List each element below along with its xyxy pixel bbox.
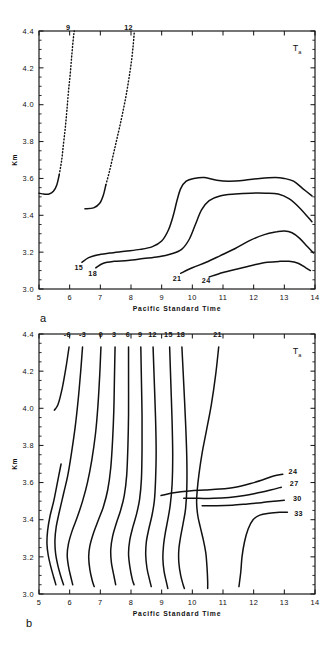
contour-label: -6: [64, 330, 71, 339]
y-tick-label: 3.2: [23, 248, 34, 257]
contour-line: [96, 193, 312, 268]
contour-label: 12: [124, 23, 133, 32]
contour-label: 18: [176, 330, 185, 339]
y-tick-label: 3.8: [23, 441, 34, 450]
panel-label: b: [26, 617, 32, 629]
contour-line: [197, 347, 219, 588]
plot-frame: [39, 31, 315, 289]
panel-b: 5678910111213143.03.23.43.63.84.04.24.4-…: [0, 330, 333, 655]
contour-line: [85, 185, 106, 209]
contour-label: 3: [112, 330, 116, 339]
x-tick-label: 9: [159, 293, 164, 302]
contour-line: [239, 512, 287, 586]
x-tick-label: 9: [159, 598, 164, 607]
contour-label: 15: [75, 263, 84, 272]
y-axis-title: Km: [11, 154, 18, 166]
contour-label: 24: [289, 467, 298, 476]
x-tick-label: 6: [67, 598, 72, 607]
y-axis-title: Km: [11, 458, 18, 470]
panel-label: a: [40, 312, 47, 324]
x-tick-label: 12: [249, 293, 258, 302]
x-tick-label: 7: [98, 598, 103, 607]
corner-annotation: Ta: [293, 346, 303, 358]
x-tick-label: 8: [129, 293, 134, 302]
y-tick-label: 3.6: [23, 174, 34, 183]
contour-label: 0: [99, 330, 103, 339]
y-tick-label: 4.4: [23, 330, 34, 339]
contour-line: [146, 347, 156, 587]
contour-line: [47, 464, 61, 585]
contour-line: [209, 261, 310, 277]
contour-label: 21: [173, 274, 182, 283]
contour-label: 24: [202, 276, 211, 285]
contour-line: [202, 500, 284, 506]
contour-line: [67, 347, 101, 585]
y-tick-label: 3.8: [23, 137, 34, 146]
contour-line: [163, 347, 173, 588]
x-tick-label: 6: [67, 293, 72, 302]
y-tick-label: 3.0: [23, 285, 34, 294]
contour-line: [161, 474, 283, 495]
contour-label: 33: [294, 509, 303, 518]
y-tick-label: 4.4: [23, 27, 34, 36]
y-tick-label: 4.2: [23, 367, 34, 376]
x-tick-label: 14: [310, 598, 319, 607]
contour-label: 12: [148, 330, 157, 339]
figure-root: 5678910111213143.03.23.43.63.84.04.24.49…: [0, 0, 333, 655]
contour-line: [129, 347, 143, 585]
contour-label: 18: [88, 269, 97, 278]
x-tick-label: 8: [129, 598, 134, 607]
x-axis-title: Pacific Standard Time: [133, 305, 222, 312]
contour-line: [111, 347, 129, 585]
panel-a-plot: 5678910111213143.03.23.43.63.84.04.24.49…: [0, 0, 333, 330]
contour-line: [55, 347, 83, 585]
y-tick-label: 3.6: [23, 478, 34, 487]
x-tick-label: 11: [219, 598, 227, 607]
contour-label: -3: [79, 330, 86, 339]
y-tick-label: 3.4: [23, 515, 34, 524]
contour-label: 15: [164, 330, 173, 339]
x-tick-label: 12: [249, 598, 258, 607]
x-tick-label: 11: [219, 293, 227, 302]
y-tick-label: 3.4: [23, 211, 34, 220]
x-tick-label: 5: [37, 598, 42, 607]
panel-a: 5678910111213143.03.23.43.63.84.04.24.49…: [0, 0, 333, 330]
contour-label: 27: [290, 479, 299, 488]
contour-label: 9: [138, 330, 142, 339]
x-tick-label: 7: [98, 293, 103, 302]
y-tick-label: 4.0: [23, 404, 34, 413]
x-tick-label: 10: [188, 293, 197, 302]
contour-line-dotted: [106, 31, 135, 185]
x-tick-label: 5: [37, 293, 42, 302]
contour-line: [179, 347, 187, 588]
y-tick-label: 3.0: [23, 590, 34, 599]
contour-line-dotted: [59, 31, 74, 175]
y-tick-label: 4.2: [23, 64, 34, 73]
contour-line: [184, 487, 282, 498]
x-axis-title: Pacific Standard Time: [133, 610, 222, 617]
x-tick-label: 10: [188, 598, 197, 607]
contour-line: [39, 175, 59, 195]
corner-annotation: Ta: [293, 43, 303, 55]
contour-label: 6: [126, 330, 130, 339]
contour-line: [54, 347, 69, 410]
y-tick-label: 3.2: [23, 553, 34, 562]
contour-label: 30: [293, 494, 302, 503]
panel-b-plot: 5678910111213143.03.23.43.63.84.04.24.4-…: [0, 330, 333, 655]
contour-label: 9: [66, 23, 70, 32]
contour-label: 21: [213, 330, 222, 339]
x-tick-label: 13: [280, 598, 289, 607]
x-tick-label: 13: [280, 293, 289, 302]
x-tick-label: 14: [310, 293, 319, 302]
y-tick-label: 4.0: [23, 100, 34, 109]
